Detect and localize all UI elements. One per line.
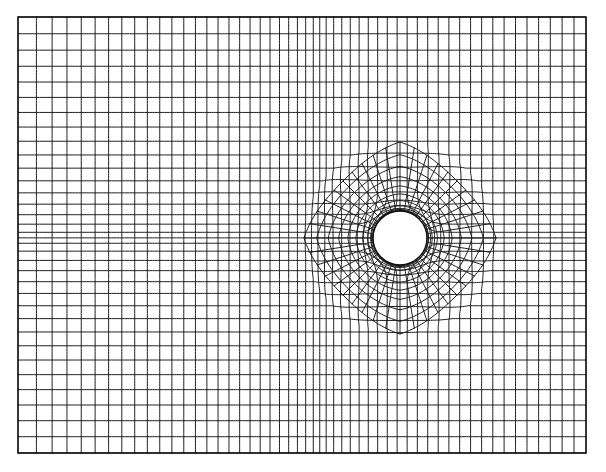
mesh-figure — [0, 0, 606, 472]
mesh-canvas — [0, 0, 606, 472]
mesh-hole — [373, 211, 427, 265]
